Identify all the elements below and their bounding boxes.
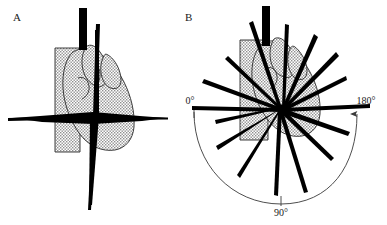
- panel-b-vessel-bar: [262, 6, 270, 46]
- figure-container: A: [0, 0, 387, 225]
- axis-label-90deg: 90°: [274, 207, 288, 218]
- panel-b-star-center: [279, 105, 286, 112]
- panel-b-label: B: [185, 11, 192, 23]
- panel-a-trunk-upper: [95, 30, 99, 116]
- panel-a-label: A: [13, 11, 21, 23]
- axis-label-0deg: 0°: [186, 95, 195, 106]
- panel-a-vessel-bar: [79, 8, 87, 50]
- axis-label-180deg: 180°: [357, 95, 376, 106]
- figure-svg: A: [0, 0, 387, 225]
